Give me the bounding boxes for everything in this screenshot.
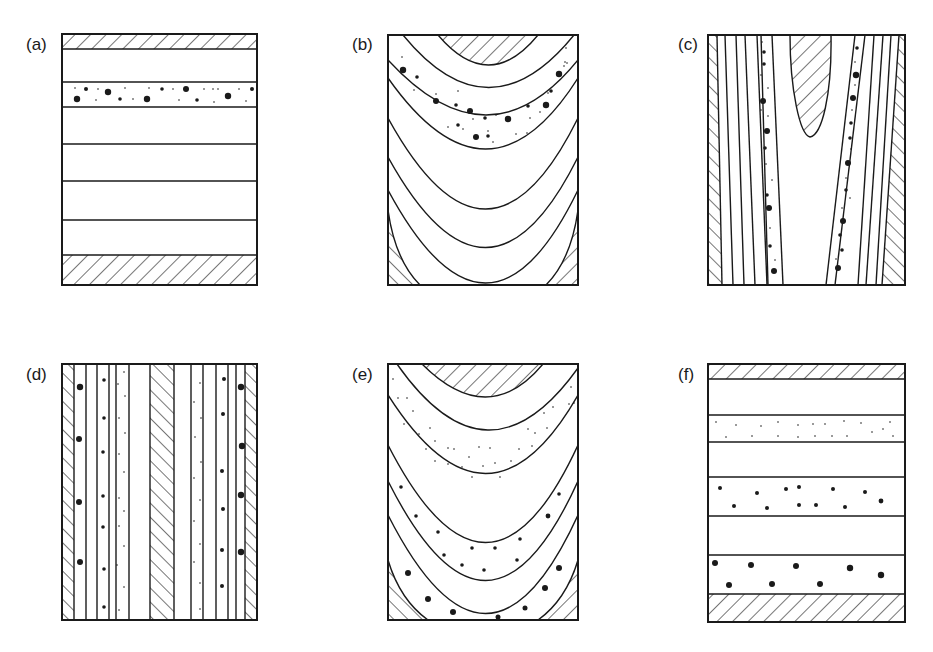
- pebble-dot: [526, 104, 530, 108]
- hatched-strip-center: [150, 364, 174, 620]
- pebble-dot: [499, 476, 501, 478]
- pebble-dot: [400, 67, 406, 73]
- pebble-dot: [831, 487, 835, 491]
- pebble-dot: [460, 563, 464, 567]
- pebble-dot: [199, 582, 201, 584]
- pebble-dot: [847, 565, 853, 571]
- pebble-dot: [406, 397, 408, 399]
- pebble-dot: [194, 436, 196, 438]
- pebble-dot: [102, 416, 106, 420]
- pebble-dot: [117, 383, 119, 385]
- layer-boundaries: [708, 379, 905, 594]
- hatched-strip-right: [882, 35, 905, 285]
- pebble-dot: [505, 116, 511, 122]
- pebble-dot: [518, 448, 520, 450]
- pebble-dot: [392, 378, 394, 380]
- hatched-band-top: [62, 34, 257, 49]
- pebble-dot: [751, 435, 753, 437]
- pebble-dot: [879, 499, 884, 504]
- pebble-dot: [552, 406, 554, 408]
- pebble-dot: [116, 564, 118, 566]
- pebble-dot: [774, 259, 776, 261]
- pebble-dot: [797, 503, 801, 507]
- pebble-dot: [76, 499, 82, 505]
- pebble-dot: [493, 546, 497, 550]
- pebble-dot: [892, 435, 894, 437]
- pebble-dot: [468, 456, 470, 458]
- pebble-dot: [456, 123, 460, 127]
- pebble-dot: [763, 146, 767, 150]
- panel-label-b: (b): [352, 35, 373, 54]
- pebble-dot: [193, 561, 195, 563]
- pebble-dot: [148, 87, 150, 89]
- pebble-dot: [76, 436, 82, 442]
- pebble-dot: [840, 248, 844, 252]
- pebble-dot: [473, 134, 479, 140]
- pebble-dot: [178, 99, 180, 101]
- pebble-dot: [496, 615, 501, 620]
- pebble-dot: [860, 422, 862, 424]
- pebble-dot: [425, 448, 427, 450]
- pebble-dot: [101, 450, 105, 454]
- pebble-dot: [492, 141, 494, 143]
- pebble-dot: [102, 605, 106, 609]
- pebble-dot: [118, 525, 120, 527]
- pebble-dot: [454, 103, 458, 107]
- hatched-band-top: [708, 364, 905, 379]
- pebble-dot: [565, 47, 567, 49]
- pebble-dot: [543, 102, 549, 108]
- pebble-dot: [123, 545, 125, 547]
- panel-frame: [708, 364, 905, 622]
- pebble-dot: [566, 62, 568, 64]
- pebble-dot: [74, 87, 76, 89]
- pebble-dot: [814, 503, 818, 507]
- pebble-dot: [399, 485, 403, 489]
- pebble-dot: [793, 563, 799, 569]
- pebble-dot: [462, 128, 464, 130]
- panel-label-e: (e): [352, 365, 373, 384]
- pebble-dot: [812, 423, 814, 425]
- pebble-dot: [434, 460, 436, 462]
- pebble-dot: [193, 520, 195, 522]
- pebble-dot: [871, 431, 873, 433]
- pebble-dot: [762, 50, 766, 54]
- pebble-dot: [245, 100, 247, 102]
- pebble-dot: [124, 395, 126, 397]
- pebble-dot: [556, 565, 562, 571]
- curved-layer-boundaries: [388, 35, 578, 285]
- pebble-dot: [568, 403, 570, 405]
- pebble-dot: [564, 61, 566, 63]
- pebble-dot: [760, 425, 762, 427]
- pebble-dot: [238, 384, 244, 390]
- pebble-dot: [854, 61, 856, 63]
- pebble-dot: [414, 514, 418, 518]
- pebble-dot: [515, 133, 517, 135]
- pebble-dot: [220, 548, 224, 552]
- pebble-dot: [546, 514, 551, 519]
- pebble-dot: [549, 89, 553, 93]
- panel-label-f: (f): [678, 365, 694, 384]
- pebble-dot: [766, 205, 772, 211]
- pebble-dot: [557, 492, 561, 496]
- hatched-band-bottom: [708, 594, 905, 622]
- pebble-dot: [765, 163, 767, 165]
- pebble-dot: [735, 424, 737, 426]
- pebble-dot: [450, 609, 456, 615]
- hatched-corner-bottom-left: [388, 210, 420, 285]
- pebble-dot: [105, 89, 111, 95]
- pebble-dot: [543, 412, 545, 414]
- pebble-dot: [853, 72, 859, 78]
- pebble-dot: [457, 90, 459, 92]
- pebble-dot: [726, 582, 732, 588]
- pebble-dot: [486, 134, 490, 138]
- hatched-strip-right: [245, 364, 257, 620]
- pebble-dot: [841, 207, 843, 209]
- pebble-dot: [797, 485, 801, 489]
- pebble-dot: [760, 74, 762, 76]
- pebble-dot: [123, 586, 125, 588]
- pebble-dot: [844, 188, 848, 192]
- pebble-dot: [848, 136, 852, 140]
- pebble-dot: [436, 530, 440, 534]
- pebble-dot: [123, 510, 125, 512]
- pebble-dot: [442, 553, 446, 557]
